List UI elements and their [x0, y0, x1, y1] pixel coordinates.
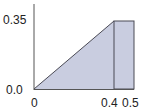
y-tick-0.35: 0.35	[3, 14, 26, 26]
x-tick-0.5: 0.5	[122, 97, 139, 109]
plateau-area	[114, 21, 134, 89]
y-tick-0.0: 0.0	[6, 84, 23, 96]
x-tick-0: 0	[31, 97, 38, 109]
x-tick-0.4: 0.4	[101, 97, 118, 109]
